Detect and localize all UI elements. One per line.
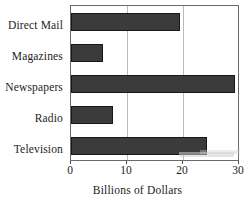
bar-magazines [71,44,103,62]
category-label-newspapers: Newspapers [0,81,63,93]
category-label-radio: Radio [0,112,63,124]
bar-chart: Direct Mail Magazines Newspapers Radio T… [0,0,251,208]
category-label-television: Television [0,143,63,155]
bar-newspapers [71,75,235,93]
category-label-magazines: Magazines [0,50,63,62]
tick-label-30: 30 [223,164,251,177]
tick-label-0: 0 [55,164,85,177]
bar-television [71,137,207,155]
x-axis-title-text: Billions of Dollars [93,184,182,196]
category-axis-labels: Direct Mail Magazines Newspapers Radio T… [0,5,66,161]
tick-label-20: 20 [167,164,197,177]
plot-area [70,5,239,161]
bar-radio [71,106,113,124]
tick-label-10: 10 [111,164,141,177]
bar-direct-mail [71,13,180,31]
category-label-direct-mail: Direct Mail [0,19,63,31]
x-axis-title: Billions of Dollars [0,184,251,196]
